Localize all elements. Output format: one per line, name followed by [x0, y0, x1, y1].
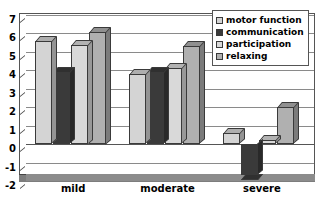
y-tick-label: 5 [0, 52, 16, 62]
legend-item[interactable]: communication [216, 26, 304, 38]
gridline--1 [26, 163, 314, 164]
bar-front-face [129, 74, 146, 144]
legend-swatch-relaxing [216, 53, 223, 60]
y-tick-label: 1 [0, 126, 16, 136]
y-tick-mark [20, 184, 25, 189]
y-tick-label: 3 [0, 89, 16, 99]
bar-severe-communication [241, 144, 258, 175]
legend-swatch-motor-function [216, 17, 223, 24]
legend-label-motor-function: motor function [226, 16, 302, 25]
legend-label-communication: communication [226, 28, 304, 37]
y-tick-label: -1 [0, 163, 16, 173]
legend-label-participation: participation [226, 40, 291, 49]
y-tick-label: 6 [0, 33, 16, 43]
bar-mild-motor-function [35, 41, 52, 144]
legend-item[interactable]: relaxing [216, 50, 304, 62]
legend-label-relaxing: relaxing [226, 52, 267, 61]
chart-floor-front [26, 174, 315, 181]
x-tick-label: moderate [120, 183, 214, 194]
bar-front-face [35, 41, 52, 144]
legend-item[interactable]: motor function [216, 14, 304, 26]
y-tick-label: 7 [0, 15, 16, 25]
bar-front-face [223, 133, 240, 144]
y-tick-label: 4 [0, 70, 16, 80]
legend-swatch-communication [216, 29, 223, 36]
chart-legend: motor function communication participati… [212, 10, 309, 66]
x-tick-label: severe [215, 183, 309, 194]
bar-severe-motor-function [223, 133, 240, 144]
bar-chart: 76543210-1-2 mildmoderatesevere motor fu… [0, 0, 320, 198]
x-tick-label: mild [26, 183, 120, 194]
bar-moderate-motor-function [129, 74, 146, 144]
legend-item[interactable]: participation [216, 38, 304, 50]
y-tick-label: 0 [0, 144, 16, 154]
y-tick-label: -2 [0, 181, 16, 191]
gridline-0 [26, 144, 314, 145]
y-tick-label: 2 [0, 107, 16, 117]
bar-front-face [241, 144, 258, 175]
legend-swatch-participation [216, 41, 223, 48]
